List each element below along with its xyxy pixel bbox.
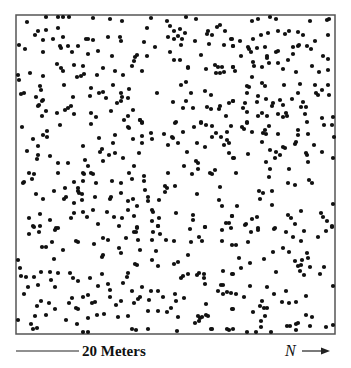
point-marker (17, 78, 21, 82)
point-marker (44, 15, 48, 19)
point-marker (326, 68, 330, 72)
point-marker (44, 245, 48, 249)
point-marker (165, 310, 169, 314)
point-marker (56, 271, 60, 275)
point-marker (296, 128, 300, 132)
point-marker (308, 19, 312, 23)
point-marker (199, 53, 203, 57)
point-marker (27, 216, 31, 220)
point-marker (202, 272, 206, 276)
point-marker (140, 69, 144, 73)
point-marker (276, 61, 280, 65)
point-marker (255, 46, 259, 50)
point-marker (153, 45, 157, 49)
point-marker (288, 324, 292, 328)
point-marker (249, 230, 253, 234)
point-marker (112, 215, 116, 219)
point-marker (264, 132, 268, 136)
point-marker (25, 149, 29, 153)
point-marker (27, 232, 31, 236)
point-marker (25, 20, 29, 24)
point-marker (294, 140, 298, 144)
point-marker (297, 43, 301, 47)
point-marker (209, 107, 213, 111)
point-marker (142, 179, 146, 183)
point-marker (34, 192, 38, 196)
point-marker (267, 124, 271, 128)
point-marker (243, 101, 247, 105)
point-marker (61, 15, 65, 19)
point-marker (119, 39, 123, 43)
point-marker (58, 123, 62, 127)
point-marker (33, 314, 37, 318)
point-marker (259, 33, 263, 37)
point-marker (274, 17, 278, 21)
point-marker (255, 100, 259, 104)
point-marker (97, 136, 101, 140)
point-marker (310, 64, 314, 68)
point-marker (191, 218, 195, 222)
point-marker (325, 219, 329, 223)
point-marker (89, 122, 93, 126)
point-marker (214, 131, 218, 135)
point-marker (239, 54, 243, 58)
point-marker (193, 321, 197, 325)
point-marker (246, 152, 250, 156)
point-marker (231, 307, 235, 311)
point-marker (127, 87, 131, 91)
point-marker (119, 99, 123, 103)
point-marker (136, 238, 140, 242)
point-marker (41, 38, 45, 42)
point-marker (172, 262, 176, 266)
point-marker (81, 144, 85, 148)
point-marker (181, 106, 185, 110)
point-marker (322, 123, 326, 127)
point-marker (206, 314, 210, 318)
point-marker (195, 192, 199, 196)
point-marker (186, 253, 190, 257)
point-marker (264, 160, 268, 164)
point-marker (172, 37, 176, 41)
point-marker (68, 271, 72, 275)
point-marker (70, 296, 74, 300)
point-marker (331, 156, 335, 160)
point-marker (256, 17, 260, 21)
point-marker (119, 299, 123, 303)
point-marker (166, 143, 170, 147)
point-marker (92, 242, 96, 246)
point-marker (56, 26, 60, 30)
north-label: N (285, 343, 296, 359)
point-marker (238, 39, 242, 43)
point-marker (303, 112, 307, 116)
point-marker (221, 283, 225, 287)
point-marker (131, 108, 135, 112)
point-marker (134, 230, 138, 234)
point-marker (248, 284, 252, 288)
point-marker (231, 65, 235, 69)
point-marker (267, 175, 271, 179)
point-marker (132, 301, 136, 305)
point-marker (257, 189, 261, 193)
point-marker (140, 134, 144, 138)
point-marker (80, 198, 84, 202)
point-marker (256, 114, 260, 118)
point-marker (29, 322, 33, 326)
point-marker (56, 15, 60, 19)
point-marker (205, 105, 209, 109)
point-marker (191, 106, 195, 110)
point-marker (156, 309, 160, 313)
point-marker (203, 145, 207, 149)
point-marker (331, 115, 335, 119)
point-marker (72, 112, 76, 116)
point-marker (162, 132, 166, 136)
point-marker (227, 328, 231, 332)
point-marker (286, 58, 290, 62)
point-marker (108, 295, 112, 299)
point-marker (263, 84, 267, 88)
point-marker (110, 54, 114, 58)
point-marker (106, 238, 110, 242)
point-marker (156, 289, 160, 293)
point-marker (312, 143, 316, 147)
point-marker (229, 291, 233, 295)
point-marker (298, 82, 302, 86)
